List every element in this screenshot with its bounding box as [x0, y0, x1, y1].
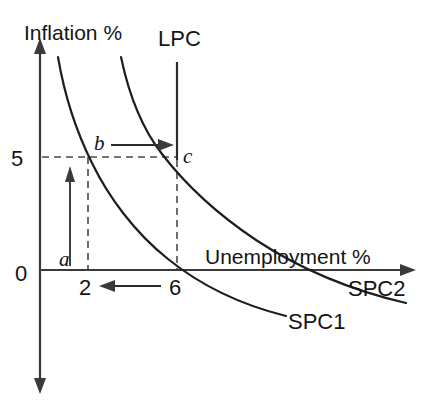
- x-axis-right-arrowhead: [400, 264, 416, 276]
- y-axis-title: Inflation %: [24, 21, 122, 44]
- x-axis-title: Unemployment %: [205, 245, 371, 268]
- spc1-label: SPC1: [288, 309, 345, 334]
- arrow-6-to-2-head: [99, 280, 115, 292]
- diagram-canvas: Inflation % Unemployment % 5 0 2 6 a b c…: [0, 0, 432, 414]
- point-label-a: a: [59, 247, 70, 271]
- arrow-b-to-c-head: [158, 139, 174, 151]
- y-axis-down-arrowhead: [34, 378, 46, 394]
- point-label-b: b: [94, 131, 105, 155]
- phillips-curve-figure: Inflation % Unemployment % 5 0 2 6 a b c…: [0, 0, 432, 414]
- arrow-a-head: [65, 166, 75, 182]
- spc2-label: SPC2: [348, 276, 405, 301]
- origin-label: 0: [15, 261, 27, 286]
- x-tick-label-2: 2: [79, 275, 91, 300]
- lpc-label: LPC: [158, 26, 201, 51]
- y-tick-label-5: 5: [11, 146, 23, 171]
- point-label-c: c: [183, 144, 193, 168]
- x-tick-label-6: 6: [169, 275, 181, 300]
